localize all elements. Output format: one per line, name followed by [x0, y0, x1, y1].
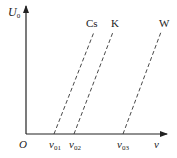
origin-label: O — [19, 139, 27, 150]
line-label-w: W — [159, 18, 169, 29]
x-axis-label: ν — [154, 139, 159, 150]
line-label-cs: Cs — [86, 18, 98, 29]
line-w — [123, 32, 161, 134]
intercept-label-02: ν02 — [69, 139, 81, 152]
intercept-label-03: ν03 — [117, 139, 129, 152]
line-cs — [54, 32, 94, 134]
y-axis-label: U0 — [8, 6, 20, 20]
intercept-label-01: ν01 — [49, 139, 61, 152]
line-label-k: K — [111, 18, 119, 29]
line-k — [74, 32, 113, 134]
